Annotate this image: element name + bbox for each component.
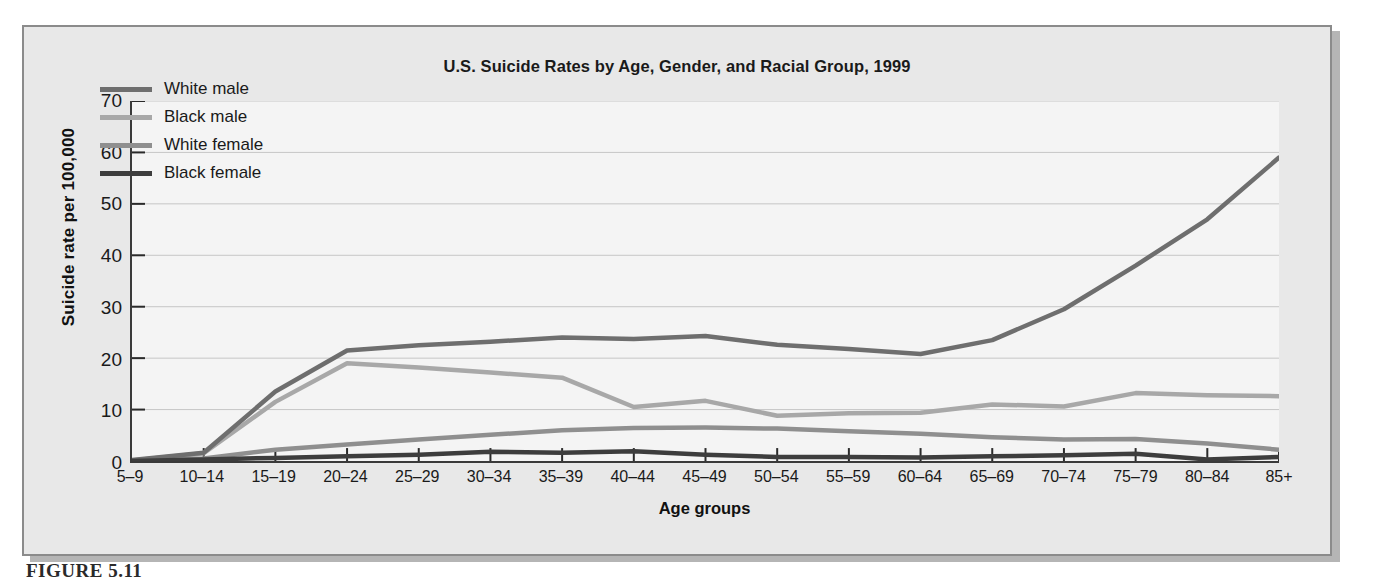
- legend-item[interactable]: Black female: [100, 159, 263, 187]
- legend-color-swatch: [100, 115, 152, 120]
- legend-color-swatch: [100, 87, 152, 92]
- x-axis-tick-label: 35–39: [539, 468, 584, 486]
- x-axis-tick-label: 60–64: [898, 468, 943, 486]
- figure-panel: U.S. Suicide Rates by Age, Gender, and R…: [22, 25, 1332, 556]
- legend-label: White male: [164, 79, 249, 99]
- x-axis-title: Age groups: [130, 499, 1279, 518]
- x-axis-tick-label: 55–59: [826, 468, 871, 486]
- x-axis-tick-label: 80–84: [1185, 468, 1230, 486]
- legend-color-swatch: [100, 143, 152, 148]
- chart-legend: White maleBlack maleWhite femaleBlack fe…: [100, 75, 263, 187]
- figure-caption: FIGURE 5.11: [26, 560, 142, 581]
- legend-item[interactable]: White female: [100, 131, 263, 159]
- x-axis-tick-label: 70–74: [1041, 468, 1086, 486]
- legend-item[interactable]: White male: [100, 75, 263, 103]
- x-axis-tick-label: 75–79: [1113, 468, 1158, 486]
- x-axis-tick-label: 65–69: [970, 468, 1015, 486]
- legend-color-swatch: [100, 171, 152, 176]
- x-axis-tick-label: 40–44: [610, 468, 655, 486]
- x-axis-tick-label: 50–54: [754, 468, 799, 486]
- legend-label: Black female: [164, 163, 261, 183]
- x-axis-tick-labels: 5–910–1415–1920–2425–2930–3435–3940–4445…: [130, 468, 1279, 492]
- x-axis-tick-label: 25–29: [395, 468, 440, 486]
- chart-title: U.S. Suicide Rates by Age, Gender, and R…: [24, 57, 1330, 76]
- y-axis-tick-label: 40: [101, 245, 122, 267]
- legend-item[interactable]: Black male: [100, 103, 263, 131]
- x-axis-tick-label: 5–9: [117, 468, 144, 486]
- x-axis-tick-label: 30–34: [467, 468, 512, 486]
- chart-svg: [132, 101, 1279, 461]
- x-axis-tick-label: 85+: [1265, 468, 1292, 486]
- legend-label: Black male: [164, 107, 247, 127]
- x-axis-tick-label: 45–49: [682, 468, 727, 486]
- legend-label: White female: [164, 135, 263, 155]
- x-axis-tick-label: 15–19: [251, 468, 296, 486]
- y-axis-tick-label: 10: [101, 400, 122, 422]
- y-axis-tick-label: 20: [101, 349, 122, 371]
- series-line: [132, 158, 1279, 460]
- y-axis-tick-label: 30: [101, 297, 122, 319]
- y-axis-tick-label: 50: [101, 193, 122, 215]
- plot-wrapper: [130, 101, 1279, 463]
- plot-area: [130, 101, 1279, 463]
- x-axis-tick-label: 20–24: [323, 468, 368, 486]
- x-axis-tick-label: 10–14: [180, 468, 225, 486]
